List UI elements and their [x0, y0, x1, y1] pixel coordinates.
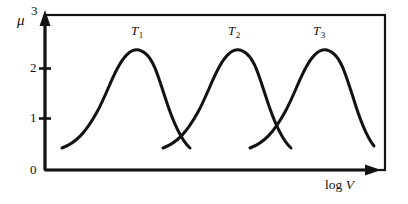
curve-label-t1-letter: T — [131, 23, 138, 38]
curve-label-t3-letter: T — [313, 23, 320, 38]
x-axis-label: log V — [325, 178, 354, 192]
curve-t1 — [62, 50, 190, 148]
curve-label-t3-subscript: 3 — [321, 30, 326, 40]
curve-t3 — [250, 50, 374, 148]
plot-frame — [45, 15, 385, 170]
curve-label-t1: T1 — [131, 24, 143, 37]
curve-label-t2-letter: T — [228, 23, 235, 38]
y-tick-label-1: 1 — [30, 111, 37, 124]
curve-label-t3: T3 — [313, 24, 325, 37]
curve-label-t2: T2 — [228, 24, 240, 37]
y-tick-label-3: 3 — [31, 4, 38, 17]
curve-label-t2-subscript: 2 — [236, 30, 241, 40]
y-tick-label-0: 0 — [30, 163, 37, 176]
y-axis-arrowhead — [40, 10, 51, 26]
x-axis-arrowhead — [365, 165, 381, 176]
x-axis-label-prefix: log — [325, 177, 342, 192]
figure-container: μ 3 2 1 0 T1 T2 T3 log V — [0, 0, 408, 204]
y-tick-label-2: 2 — [30, 61, 37, 74]
mu-axis-symbol: μ — [17, 13, 25, 28]
plot-svg — [0, 0, 408, 204]
x-axis-label-variable: V — [346, 177, 354, 192]
curve-label-t1-subscript: 1 — [139, 30, 144, 40]
